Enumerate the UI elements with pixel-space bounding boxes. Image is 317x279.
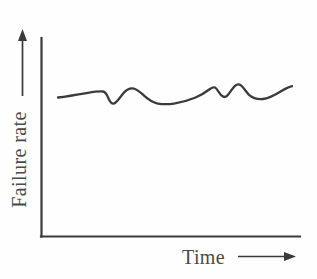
y-axis-up-arrow-icon [18, 29, 27, 96]
x-axis-right-arrow-icon [238, 252, 296, 261]
failure-rate-series-line [58, 84, 292, 104]
chart-canvas [0, 0, 317, 279]
y-axis-label: Failure rate [8, 108, 31, 212]
x-axis-label: Time [182, 246, 225, 269]
failure-rate-chart-figure: Failure rate Time [0, 0, 317, 279]
